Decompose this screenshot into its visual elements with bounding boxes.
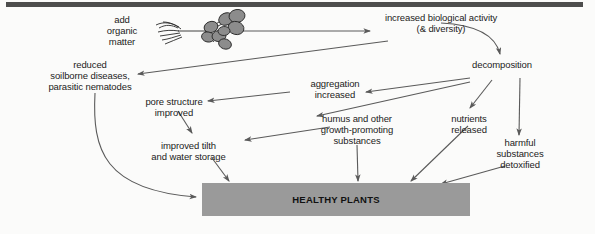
legume-root-illustration (156, 8, 246, 51)
node-reduced-soilborne-diseases: reduced soilborne diseases, parasitic ne… (30, 59, 150, 92)
healthy-plants-label: HEALTHY PLANTS (292, 194, 379, 205)
node-nutrients-released: nutrients released (441, 113, 497, 135)
healthy-plants-box: HEALTHY PLANTS (202, 183, 470, 216)
node-aggregation-increased: aggregation increased (300, 78, 370, 100)
node-increased-biological-activity: increased biological activity (& diversi… (366, 12, 516, 34)
node-harmful-substances-detoxified: harmful substances detoxified (489, 137, 551, 170)
arrow-aggregation-to-pore-structure (208, 92, 290, 101)
arrow-humus-to-healthy-plants (357, 145, 358, 181)
diagram-canvas: add organic matter increased biological … (0, 0, 595, 234)
node-pore-structure-improved: pore structure improved (134, 96, 214, 118)
node-add-organic-matter: add organic matter (96, 14, 148, 47)
arrow-decomposition-to-harmful-substances (519, 78, 520, 135)
arrow-biological-to-reduced-soilborne (138, 41, 388, 74)
node-humus-growth-promoting-substances: humus and other growth-promoting substan… (307, 113, 407, 146)
arrow-decomposition-to-nutrients (470, 80, 492, 108)
node-improved-tilth-water-storage: improved tilth and water storage (137, 140, 240, 162)
node-decomposition: decomposition (466, 59, 538, 70)
